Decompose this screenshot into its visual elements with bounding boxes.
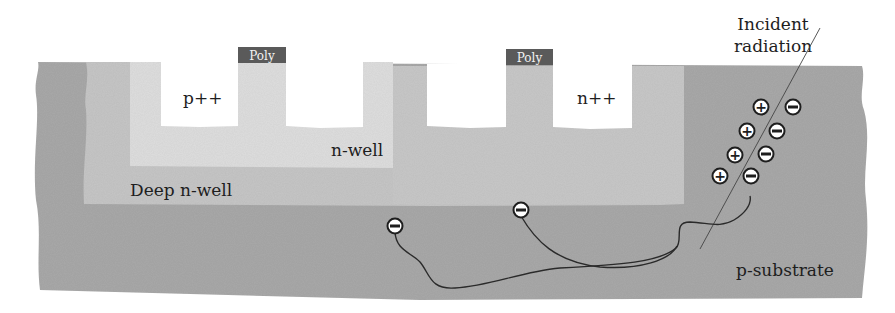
electron-carrier [786, 100, 801, 115]
poly-label: Poly [517, 51, 543, 65]
hole-carrier: + [740, 123, 755, 139]
electron-carrier [744, 169, 759, 184]
minus-icon [390, 225, 400, 228]
p-diffusion-label: p++ [183, 88, 222, 108]
plus-icon: + [755, 99, 767, 115]
hole-carrier: + [728, 147, 743, 163]
minus-icon [788, 106, 798, 109]
cmos-cross-section-diagram: Poly Poly p++ n++ n-well Deep n-well p-s… [0, 0, 895, 313]
electron-carrier [770, 124, 785, 139]
radiation-label-line1: Incident [737, 14, 809, 34]
poly-gate-right: Poly [506, 49, 553, 65]
n-diffusion-label: n++ [577, 88, 616, 108]
p-substrate-label: p-substrate [736, 260, 834, 280]
poly-gate-left: Poly [238, 47, 286, 63]
minus-icon [516, 209, 526, 212]
minus-icon [761, 153, 771, 156]
collected-electron-left [388, 219, 403, 234]
n-diffusion-left [427, 64, 506, 128]
collected-electron-center [514, 203, 529, 218]
n-well-label: n-well [331, 140, 383, 160]
p-diffusion-right [286, 62, 363, 128]
plus-icon: + [714, 168, 726, 184]
hole-carrier: + [713, 168, 728, 184]
plus-icon: + [741, 123, 753, 139]
electron-carrier [759, 147, 774, 162]
plus-icon: + [729, 147, 741, 163]
deep-n-well-label: Deep n-well [130, 180, 232, 200]
minus-icon [746, 175, 756, 178]
poly-label: Poly [249, 49, 275, 63]
radiation-label-line2: radiation [734, 36, 812, 56]
minus-icon [772, 130, 782, 133]
hole-carrier: + [754, 99, 769, 115]
